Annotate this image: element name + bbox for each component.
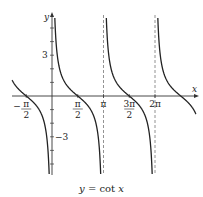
- caption: y = cot x: [0, 183, 203, 194]
- tick-label-3pi-over-2-den: 2: [126, 110, 132, 120]
- tick-label-pi-over-2-den: 2: [75, 110, 81, 120]
- y-tick-label-3: 3: [42, 50, 48, 60]
- y-axis-label: y: [43, 12, 50, 22]
- tick-label-2pi: 2π: [149, 99, 161, 109]
- x-axis-arrow-icon: [194, 94, 199, 98]
- caption-fn: cot: [99, 183, 115, 194]
- tick-label-neg-pi-over-2-den: 2: [23, 110, 29, 120]
- cot-curve-branch: [158, 18, 196, 114]
- y-axis-arrow-icon: [50, 12, 54, 17]
- tick-label-pi: π: [101, 99, 107, 109]
- x-axis-label: x: [192, 84, 197, 94]
- tick-label-neg-pi-over-2-num: π: [23, 99, 29, 109]
- cot-curve-branch: [12, 80, 49, 174]
- tick-label-3pi-over-2-num: 3π: [123, 99, 135, 109]
- caption-x: x: [115, 183, 124, 194]
- tick-label-pi-over-2-num: π: [75, 99, 81, 109]
- tick-label-neg-pi-over-2-minus: −: [13, 101, 21, 111]
- caption-eq: =: [85, 183, 100, 194]
- y-tick-label-neg3: −3: [55, 132, 69, 142]
- cot-graph: yx3−3−π2π2π3π22π: [0, 0, 203, 197]
